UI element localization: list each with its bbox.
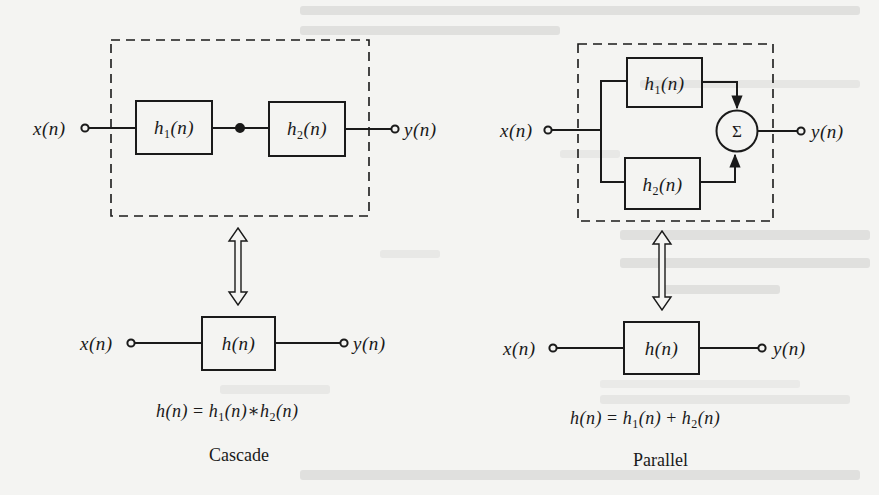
cascade-eq-input-terminal: [127, 339, 134, 346]
cascade-eq-input-label: x(n): [80, 334, 113, 353]
cascade-h2-label: h2(n): [269, 119, 345, 141]
cascade-equivalence-arrow: [229, 228, 247, 305]
block-diagram-figure: x(n) h1(n) h2(n) y(n) x(n) h(n) y(n) h(n…: [0, 0, 879, 495]
cascade-junction-dot: [236, 124, 244, 132]
parallel-eq-h-label: h(n): [624, 339, 699, 358]
parallel-output-terminal: [797, 127, 804, 134]
parallel-equivalence-arrow: [653, 231, 671, 310]
parallel-eq-output-label: y(n): [773, 339, 806, 358]
parallel-caption: Parallel: [633, 451, 688, 469]
cascade-output-label: y(n): [404, 120, 437, 139]
cascade-input-terminal: [81, 124, 88, 131]
cascade-input-label: x(n): [33, 119, 66, 138]
parallel-eq-output-terminal: [758, 344, 765, 351]
summation-sigma-icon: Σ: [717, 123, 757, 140]
parallel-equation: h(n) = h1(n) + h2(n): [570, 409, 720, 430]
parallel-eq-input-terminal: [549, 344, 556, 351]
cascade-system: [81, 40, 398, 216]
parallel-input-terminal: [544, 126, 551, 133]
parallel-h1-label: h1(n): [627, 74, 702, 96]
cascade-eq-output-terminal: [340, 339, 347, 346]
cascade-eq-h-label: h(n): [202, 334, 275, 353]
parallel-h2-label: h2(n): [625, 175, 700, 197]
parallel-input-label: x(n): [500, 121, 533, 140]
cascade-eq-output-label: y(n): [353, 334, 386, 353]
cascade-caption: Cascade: [209, 446, 269, 464]
parallel-eq-input-label: x(n): [503, 339, 536, 358]
parallel-output-label: y(n): [811, 122, 844, 141]
cascade-output-terminal: [391, 125, 398, 132]
cascade-equation: h(n) = h1(n)∗h2(n): [156, 402, 298, 423]
cascade-h1-label: h1(n): [136, 118, 212, 140]
diagram-line-art: [0, 0, 879, 495]
